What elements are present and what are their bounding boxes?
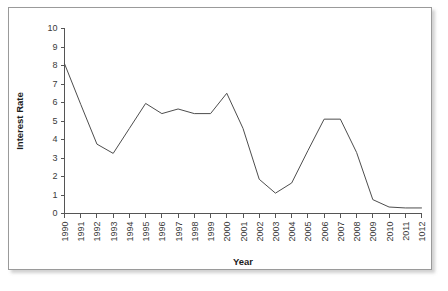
x-tick-label: 2005: [303, 222, 313, 242]
x-tick-label: 1999: [206, 222, 216, 242]
data-series-group: [65, 64, 422, 208]
x-tick-label: 1998: [190, 222, 200, 242]
x-tick-label: 1994: [125, 222, 135, 242]
y-tick-label: 7: [52, 79, 57, 89]
x-tick-label: 1991: [76, 222, 86, 242]
x-tick-label: 2006: [320, 222, 330, 242]
x-tick-label: 1995: [141, 222, 151, 242]
y-tick-label: 8: [52, 60, 57, 70]
y-tick-label: 3: [52, 153, 57, 163]
y-tick-label: 9: [52, 42, 57, 52]
y-tick-label: 5: [52, 116, 57, 126]
chart-card: 012345678910 199019911992199319941995199…: [8, 7, 432, 270]
x-tick-label: 1993: [109, 222, 119, 242]
x-tick-label: 2000: [222, 222, 232, 242]
x-tick-label: 2010: [385, 222, 395, 242]
line-chart-plot: 012345678910 199019911992199319941995199…: [9, 8, 431, 269]
y-tick-label: 2: [52, 171, 57, 181]
x-tick-label: 2004: [287, 222, 297, 242]
chart-figure: 012345678910 199019911992199319941995199…: [0, 0, 448, 291]
x-axis-title: Year: [233, 256, 253, 267]
x-tick-label: 2003: [271, 222, 281, 242]
data-series-line: [65, 64, 422, 208]
x-tick-label: 2009: [368, 222, 378, 242]
x-tick-label: 2001: [239, 222, 249, 242]
x-axis-ticks: 1990199119921993199419951996199719981999…: [60, 214, 427, 242]
y-axis-ticks: 012345678910: [47, 23, 64, 218]
x-tick-label: 1990: [60, 222, 70, 242]
x-tick-label: 2002: [255, 222, 265, 242]
x-tick-label: 1996: [157, 222, 167, 242]
x-tick-label: 1012: [417, 222, 427, 242]
x-tick-label: 2008: [352, 222, 362, 242]
y-tick-label: 1: [52, 190, 57, 200]
y-axis-title: Interest Rate: [14, 92, 25, 150]
x-tick-label: 2007: [336, 222, 346, 242]
y-tick-label: 6: [52, 97, 57, 107]
y-tick-label: 10: [47, 23, 57, 33]
y-tick-label: 0: [52, 208, 57, 218]
y-tick-label: 4: [52, 134, 57, 144]
x-tick-label: 2011: [401, 222, 411, 241]
x-tick-label: 1997: [174, 222, 184, 242]
x-tick-label: 1992: [92, 222, 102, 242]
